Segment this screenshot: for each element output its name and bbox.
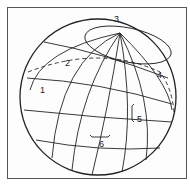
label-6: 6 [99,140,104,149]
latitude-polar-circle [81,19,174,71]
label-3: 3 [114,15,119,24]
latitude-line-1 [27,78,172,104]
latitude-line-upper [44,42,168,78]
label-2: 2 [65,59,70,68]
label-4: 4 [157,71,162,80]
latitude-line-2 [24,110,172,122]
globe-diagram [0,0,190,186]
label-5: 5 [137,115,142,124]
label-1: 1 [40,86,45,95]
dashed-great-circle [28,58,174,112]
bracket-6 [90,135,110,137]
